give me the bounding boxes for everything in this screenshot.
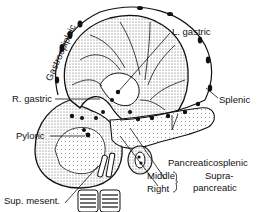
label-r-gastric: R. gastric xyxy=(12,94,52,104)
label-pancreatic: pancreatic xyxy=(193,183,237,193)
label-right: Right xyxy=(147,184,169,194)
label-middle: Middle xyxy=(147,171,175,181)
label-pancreaticosplenic: Pancreaticosplenic xyxy=(168,158,248,168)
label-splenic: Splenic xyxy=(219,95,250,105)
label-supra: Supra- xyxy=(205,171,234,181)
great-vessels xyxy=(78,190,120,212)
stomach-lymph-diagram: Gastroepiploic L. gastric Splenic R. gas… xyxy=(0,0,257,212)
label-l-gastric: L. gastric xyxy=(172,27,211,37)
label-pyloric: Pyloric xyxy=(16,131,45,141)
label-sup-mesent: Sup. mesent. xyxy=(4,196,60,206)
